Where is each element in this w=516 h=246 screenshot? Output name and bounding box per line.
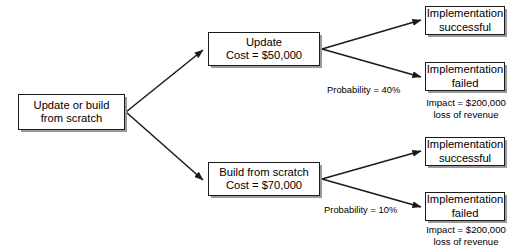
node-outcome-build-failed[interactable]: Implementation failed bbox=[425, 192, 505, 221]
decision-tree-diagram: Update or build from scratch Update Cost… bbox=[0, 0, 516, 246]
node-outcome-update-failed-line2: failed bbox=[452, 77, 479, 90]
edge-root-to-build bbox=[126, 112, 203, 180]
node-option-update-line1: Update bbox=[246, 36, 282, 49]
node-root[interactable]: Update or build from scratch bbox=[18, 94, 125, 130]
node-outcome-update-successful-line2: successful bbox=[439, 21, 491, 34]
node-outcome-update-failed-line1: Implementation bbox=[427, 63, 504, 76]
node-outcome-build-failed-line2: failed bbox=[452, 207, 479, 220]
probability-label-update: Probability = 40% bbox=[327, 84, 400, 95]
impact-annotation-update-line2: loss of revenue bbox=[418, 109, 514, 121]
node-root-line1: Update or build bbox=[34, 99, 110, 112]
node-outcome-build-successful-line1: Implementation bbox=[427, 138, 504, 151]
impact-annotation-build-line1: Impact = $200,000 bbox=[418, 224, 514, 236]
node-option-build-line2: Cost = $70,000 bbox=[226, 179, 302, 192]
node-outcome-update-successful-line1: Implementation bbox=[427, 7, 504, 20]
node-outcome-build-successful[interactable]: Implementation successful bbox=[425, 137, 505, 166]
probability-label-build: Probability = 10% bbox=[324, 204, 397, 215]
impact-annotation-update-line1: Impact = $200,000 bbox=[418, 97, 514, 109]
node-outcome-update-successful[interactable]: Implementation successful bbox=[425, 6, 505, 35]
node-option-build[interactable]: Build from scratch Cost = $70,000 bbox=[208, 162, 320, 196]
impact-annotation-build-line2: loss of revenue bbox=[418, 236, 514, 246]
edge-update-to-successful bbox=[322, 20, 421, 49]
edge-root-to-update bbox=[126, 50, 203, 112]
node-outcome-build-successful-line2: successful bbox=[439, 152, 491, 165]
impact-annotation-build: Impact = $200,000 loss of revenue bbox=[418, 224, 514, 246]
impact-annotation-update: Impact = $200,000 loss of revenue bbox=[418, 97, 514, 120]
node-root-line2: from scratch bbox=[41, 112, 103, 125]
edge-update-to-failed bbox=[322, 49, 421, 77]
edge-build-to-successful bbox=[322, 151, 421, 179]
node-option-update-line2: Cost = $50,000 bbox=[226, 49, 302, 62]
node-option-build-line1: Build from scratch bbox=[219, 166, 309, 179]
edge-build-to-failed bbox=[322, 179, 421, 207]
node-outcome-update-failed[interactable]: Implementation failed bbox=[425, 62, 505, 91]
node-option-update[interactable]: Update Cost = $50,000 bbox=[208, 32, 320, 66]
node-outcome-build-failed-line1: Implementation bbox=[427, 193, 504, 206]
